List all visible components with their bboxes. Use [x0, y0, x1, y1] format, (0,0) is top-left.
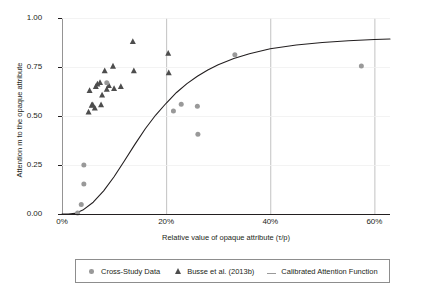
y-axis-tick-label: 0.00 — [27, 210, 42, 218]
y-axis-tick-mark — [58, 116, 62, 117]
legend-glyph-shape — [89, 269, 94, 274]
y-axis-tick-mark — [58, 67, 62, 68]
x-axis-line — [62, 214, 390, 215]
legend-line-icon — [267, 269, 276, 274]
data-point-circle — [195, 132, 200, 137]
busse-data-markers — [86, 38, 172, 114]
legend-entry[interactable]: Busse et al. (2013b) — [173, 267, 254, 276]
x-axis-tick-label: 0% — [56, 218, 67, 226]
chart-legend: Cross-Study DataBusse et al. (2013b)Cali… — [75, 259, 390, 283]
data-point-circle — [232, 52, 237, 57]
data-point-triangle — [130, 38, 136, 44]
data-point-triangle — [111, 85, 117, 91]
x-axis-tick-label: 60% — [367, 218, 383, 226]
y-axis-tick-mark — [58, 165, 62, 166]
y-axis-tick-label: 0.50 — [27, 112, 42, 120]
plot-area — [62, 18, 390, 214]
y-axis-tick-label: 0.75 — [27, 63, 42, 71]
plot-canvas — [62, 18, 390, 214]
data-point-triangle — [87, 87, 93, 93]
cross-study-data-markers — [75, 52, 364, 215]
x-axis-title: Relative value of opaque attribute (τ/p) — [62, 233, 390, 242]
legend-glyph-shape — [175, 268, 181, 274]
y-axis-tick-label: 1.00 — [27, 14, 42, 22]
data-point-triangle — [99, 92, 105, 98]
data-point-triangle — [118, 83, 124, 89]
data-point-circle — [81, 182, 86, 187]
data-point-triangle — [110, 63, 116, 69]
data-point-circle — [79, 202, 84, 207]
legend-circle-icon — [87, 269, 96, 274]
data-point-circle — [104, 80, 109, 85]
data-point-circle — [359, 64, 364, 69]
legend-label: Calibrated Attention Function — [281, 267, 377, 276]
data-point-triangle — [102, 68, 108, 74]
legend-entry[interactable]: Calibrated Attention Function — [267, 267, 377, 276]
y-axis-tick-label: 0.25 — [27, 161, 42, 169]
data-point-triangle — [131, 68, 137, 74]
data-point-triangle — [86, 109, 92, 115]
calibrated-attention-curve — [62, 39, 390, 214]
y-axis-tick-mark — [58, 18, 62, 19]
legend-triangle-icon — [173, 268, 182, 274]
horizontal-gridlines — [62, 19, 390, 166]
data-point-circle — [81, 163, 86, 168]
data-point-circle — [195, 104, 200, 109]
x-axis-tick-label: 20% — [158, 218, 174, 226]
vertical-gridlines — [63, 18, 375, 214]
legend-label: Cross-Study Data — [101, 267, 160, 276]
legend-glyph-shape — [267, 273, 276, 274]
data-point-circle — [179, 102, 184, 107]
data-point-circle — [171, 109, 176, 114]
x-axis-tick-label: 40% — [262, 218, 278, 226]
data-point-triangle — [165, 50, 171, 56]
data-point-triangle — [98, 101, 104, 107]
legend-entry[interactable]: Cross-Study Data — [87, 267, 160, 276]
y-axis-tick-labels: 0.000.250.500.751.00 — [0, 0, 56, 296]
y-axis-tick-mark — [58, 214, 62, 215]
attention-function-chart: Attention m to the opaque attribute 0.00… — [0, 0, 427, 296]
legend-label: Busse et al. (2013b) — [187, 267, 254, 276]
